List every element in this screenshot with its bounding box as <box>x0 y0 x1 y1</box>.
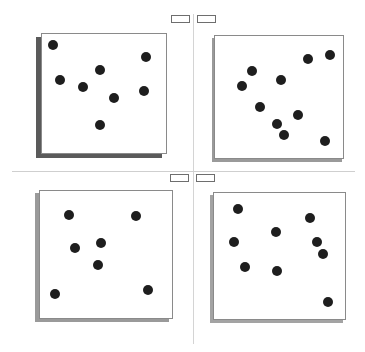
dot-point <box>272 119 282 129</box>
dot-point <box>272 266 282 276</box>
tab-top-left[interactable] <box>171 15 190 23</box>
dot-point <box>255 102 265 112</box>
dot-point <box>318 249 328 259</box>
dot-point <box>271 227 281 237</box>
panel-bottom-left <box>39 190 173 319</box>
dot-point <box>64 210 74 220</box>
dot-point <box>50 289 60 299</box>
dot-point <box>95 65 105 75</box>
dot-point <box>109 93 119 103</box>
tab-bottom-right[interactable] <box>196 174 215 182</box>
dot-point <box>229 237 239 247</box>
dot-point <box>247 66 257 76</box>
dot-point <box>78 82 88 92</box>
dot-point <box>48 40 58 50</box>
dot-point <box>320 136 330 146</box>
vertical-divider <box>193 14 194 344</box>
dot-point <box>70 243 80 253</box>
dot-point <box>312 237 322 247</box>
dot-point <box>276 75 286 85</box>
tab-top-right[interactable] <box>197 15 216 23</box>
dot-point <box>143 285 153 295</box>
dot-point <box>96 238 106 248</box>
dot-point <box>305 213 315 223</box>
dot-point <box>233 204 243 214</box>
dot-point <box>55 75 65 85</box>
dot-point <box>325 50 335 60</box>
dot-point <box>240 262 250 272</box>
tab-bottom-left[interactable] <box>170 174 189 182</box>
dot-point <box>95 120 105 130</box>
dot-point <box>323 297 333 307</box>
dot-point <box>303 54 313 64</box>
dot-point <box>139 86 149 96</box>
dot-point <box>93 260 103 270</box>
dot-point <box>141 52 151 62</box>
dot-point <box>237 81 247 91</box>
horizontal-divider <box>12 171 355 172</box>
dot-point <box>293 110 303 120</box>
dot-point <box>131 211 141 221</box>
dot-point <box>279 130 289 140</box>
